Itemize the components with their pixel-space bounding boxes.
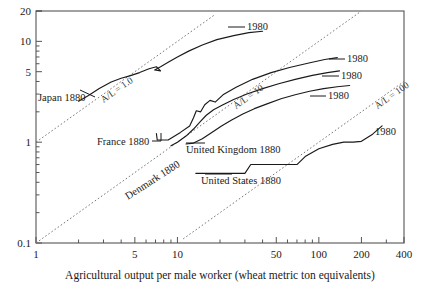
x-tick-label: 200 xyxy=(353,248,370,260)
y-tick-label: 5 xyxy=(26,66,32,78)
y-tick-label: 20 xyxy=(20,5,32,17)
x-axis-ticks xyxy=(36,237,404,243)
x-axis-tick-labels: 151050100200400 xyxy=(33,248,413,260)
series-annotations: Japan 1880France 1880Denmark 1880United … xyxy=(38,21,396,202)
y-tick-label: 1 xyxy=(26,136,32,148)
reference-line xyxy=(36,11,361,243)
x-tick-label: 1 xyxy=(33,248,39,260)
chart-canvas: 2010510.1 151050100200400 Japan 1880Fran… xyxy=(0,0,424,290)
reference-line xyxy=(183,81,404,238)
reference-line-label: A/L = 100 xyxy=(373,80,411,111)
chart-figure: 2010510.1 151050100200400 Japan 1880Fran… xyxy=(0,0,424,290)
annotation-us-end: 1980 xyxy=(375,126,396,137)
reference-line-labels: A/L = 1.0A/L = 10A/L = 100 xyxy=(99,75,411,111)
annotation-france-start: France 1880 xyxy=(97,136,149,147)
annotation-uk-end: 1980 xyxy=(328,90,349,101)
annotation-japan-start: Japan 1880 xyxy=(38,92,86,103)
annotation-france-end: 1980 xyxy=(341,70,362,81)
x-axis-title: Agricultural output per male worker (whe… xyxy=(65,269,375,282)
y-axis-tick-labels: 2010510.1 xyxy=(17,5,31,249)
annotation-japan-end: 1980 xyxy=(247,21,268,32)
annotation-denmark-start: Denmark 1880 xyxy=(123,158,182,201)
y-tick-label: 0.1 xyxy=(17,237,31,249)
y-axis-ticks xyxy=(36,11,42,243)
annotation-denmark-end: 1980 xyxy=(347,53,368,64)
x-tick-label: 10 xyxy=(172,248,184,260)
series-line-united-kingdom xyxy=(186,85,350,143)
x-tick-label: 400 xyxy=(396,248,413,260)
x-tick-label: 50 xyxy=(271,248,283,260)
annotation-uk-start: United Kingdom 1880 xyxy=(186,144,281,155)
x-tick-label: 100 xyxy=(311,248,328,260)
annotation-us-start: United States 1880 xyxy=(201,175,281,186)
y-tick-label: 10 xyxy=(20,35,32,47)
x-tick-label: 5 xyxy=(132,248,138,260)
